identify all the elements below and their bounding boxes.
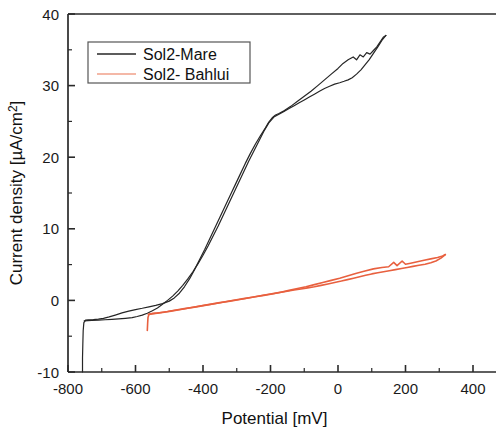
data-series xyxy=(83,35,446,372)
series-line-sol2-bahlui xyxy=(147,255,445,331)
y-tick-label: -10 xyxy=(37,364,59,381)
x-tick-label: -400 xyxy=(188,380,218,397)
series-line-sol2-mare xyxy=(83,35,386,372)
y-tick-label: 40 xyxy=(42,6,59,23)
x-tick-label: -600 xyxy=(120,380,150,397)
polarization-curve-chart: -800-600-400-2000200400-10010203040 Pote… xyxy=(0,0,499,436)
y-tick-label: 30 xyxy=(42,77,59,94)
x-tick-label: 0 xyxy=(334,380,342,397)
y-tick-label: 20 xyxy=(42,149,59,166)
legend-entry-label: Sol2-Mare xyxy=(143,46,217,63)
chart-figure: -800-600-400-2000200400-10010203040 Pote… xyxy=(0,0,499,436)
series-line-sol2-bahlui xyxy=(148,255,445,315)
x-tick-label: 400 xyxy=(460,380,485,397)
y-tick-label: 0 xyxy=(51,292,59,309)
legend: Sol2-MareSol2- Bahlui xyxy=(88,42,250,83)
y-axis-title: Current density [µA/cm2] xyxy=(6,101,26,286)
y-tick-label: 10 xyxy=(42,220,59,237)
x-tick-label: 200 xyxy=(393,380,418,397)
x-axis-title: Potential [mV] xyxy=(222,409,328,428)
x-tick-label: -200 xyxy=(255,380,285,397)
legend-entry-label: Sol2- Bahlui xyxy=(143,66,229,83)
x-tick-label: -800 xyxy=(53,380,83,397)
